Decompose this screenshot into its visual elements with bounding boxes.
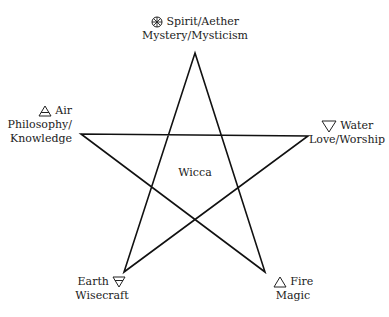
pentagram [0,0,389,317]
fire-element: Fire [290,275,313,288]
air-aspect-line2: Knowledge [0,132,72,146]
earth-label: Earth Wisecraft [72,275,132,303]
air-triangle-icon [38,105,52,117]
fire-label: Fire Magic [268,275,318,303]
spirit-element: Spirit/Aether [166,15,239,28]
water-aspect: Love/Worship [307,133,387,147]
earth-element: Earth [78,275,109,288]
water-element: Water [340,119,373,132]
water-triangle-icon [321,120,337,133]
spirit-wheel-icon [151,16,163,28]
air-element: Air [55,104,72,117]
fire-triangle-icon [273,276,287,288]
fire-aspect: Magic [268,289,318,303]
air-label: Air Philosophy/ Knowledge [0,104,72,146]
water-label: Water Love/Worship [307,119,387,147]
spirit-label: Spirit/Aether Mystery/Mysticism [130,15,260,43]
earth-aspect: Wisecraft [72,289,132,303]
air-aspect-line1: Philosophy/ [0,118,72,132]
earth-triangle-icon [112,276,126,288]
center-label: Wicca [165,166,225,180]
spirit-aspect: Mystery/Mysticism [130,29,260,43]
